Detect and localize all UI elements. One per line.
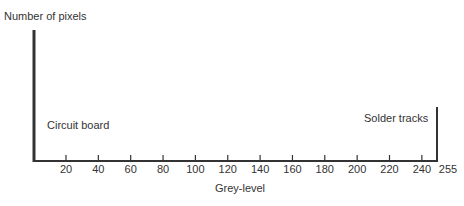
x-tick-label: 240 [413,163,431,175]
annotation-circuit-board: Circuit board [47,119,109,131]
x-tick-label-255: 255 [439,163,457,175]
x-tick-label: 180 [316,163,334,175]
x-axis-label: Grey-level [215,182,265,194]
x-tick-label: 100 [186,163,204,175]
x-tick-label: 200 [348,163,366,175]
x-tick-label: 140 [251,163,269,175]
annotation-solder-tracks: Solder tracks [364,112,428,124]
histogram-plot [0,0,464,206]
x-tick-label: 80 [157,163,169,175]
x-tick-label: 40 [92,163,104,175]
x-tick-label: 160 [283,163,301,175]
x-tick-label: 220 [380,163,398,175]
x-tick-label: 120 [219,163,237,175]
x-tick-label: 20 [60,163,72,175]
x-tick-label: 60 [125,163,137,175]
